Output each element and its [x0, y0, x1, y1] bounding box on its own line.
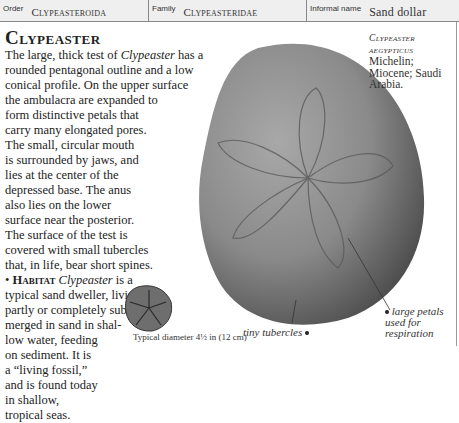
text-line: also lies on the lower — [5, 198, 230, 213]
text-line: conical profile. On the upper surface — [5, 78, 230, 93]
order-label: Order — [3, 4, 23, 13]
genus-italic: Clypeaster — [59, 273, 113, 287]
specimen-genus: Clypeaster — [369, 33, 442, 45]
text-line: is surrounded by jaws, and — [5, 153, 230, 168]
text-line: the ambulacra are expanded to — [5, 93, 230, 108]
text-line: that, in life, bear short spines. — [5, 258, 230, 273]
order-value: Clypeasteroida — [31, 6, 106, 18]
text-line: The surface of the test is — [5, 228, 230, 243]
header-divider — [306, 0, 307, 21]
text-line: The small, circular mouth — [5, 138, 230, 153]
order-field: Order Clypeasteroida — [3, 0, 106, 21]
bullet-icon — [385, 310, 389, 314]
text-line: carry many elongated pores. — [5, 123, 230, 138]
page-right-border — [456, 22, 457, 346]
specimen-author: Michelin; — [369, 56, 442, 68]
text-line: form distinctive petals that — [5, 108, 230, 123]
entry-description: The large, thick test of Clypeaster has … — [5, 48, 230, 423]
annotation-text: tiny tubercles — [243, 326, 302, 338]
informal-name-value: Sand dollar — [369, 5, 426, 19]
sand-dollar-underside-image — [124, 284, 174, 332]
annotation-text: respiration — [385, 327, 434, 339]
family-value: Clypeasteridae — [184, 6, 258, 18]
family-label: Family — [152, 4, 176, 13]
entry-title: Clypeaster — [5, 27, 101, 49]
text-line: tropical seas. — [5, 408, 230, 423]
bullet-icon — [305, 331, 309, 335]
text-line: surface near the posterior. — [5, 213, 230, 228]
informal-name-label: Informal name — [310, 4, 361, 13]
text-line: merged in sand in shal- — [5, 318, 230, 333]
tubercles-annotation: tiny tubercles — [243, 326, 309, 338]
genus-italic: Clypeaster — [121, 48, 175, 62]
text-line: in shallow, — [5, 393, 230, 408]
informal-name-field: Informal name Sand dollar — [310, 0, 426, 21]
text-line: on sediment. It is — [5, 348, 230, 363]
text-line: a “living fossil,” — [5, 363, 230, 378]
header-divider — [148, 0, 149, 21]
habitat-label: Habitat — [13, 273, 56, 287]
text-line: and is found today — [5, 378, 230, 393]
text-line: partly or completely sub- — [5, 303, 230, 318]
text: The large, thick test of — [5, 48, 121, 62]
text-line: typical sand dweller, living — [5, 288, 230, 303]
habitat-heading-line: • Habitat Clypeaster is a — [5, 273, 230, 288]
specimen-age-location: Arabia. — [369, 79, 442, 91]
text-line: lies at the center of the — [5, 168, 230, 183]
diameter-caption: Typical diameter 4½ in (12 cm) — [133, 332, 247, 342]
classification-header: Order Clypeasteroida Family Clypeasterid… — [0, 0, 459, 22]
text-line: rounded pentagonal outline and a low — [5, 63, 230, 78]
text-line: depressed base. The anus — [5, 183, 230, 198]
text-line: covered with small tubercles — [5, 243, 230, 258]
petals-annotation: large petals used for respiration — [385, 306, 444, 339]
family-field: Family Clypeasteridae — [152, 0, 257, 21]
bullet-icon: • — [5, 273, 13, 287]
specimen-label: Clypeaster aegypticus Michelin; Miocene;… — [369, 33, 442, 91]
